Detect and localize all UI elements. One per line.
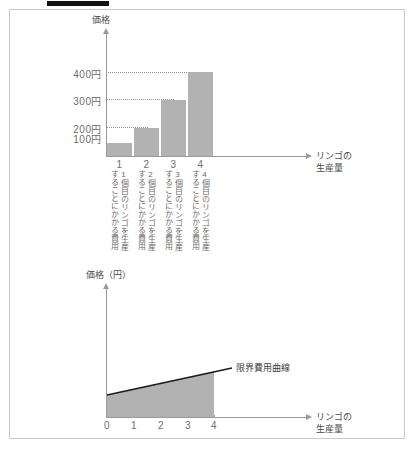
bar-caption-4-col2: することにかかる費用 (190, 170, 199, 256)
bar-number-3: 3 (161, 159, 186, 170)
figure-root: 価格 リンゴの 生産量 400円 300円 200円 100円 1 2 3 4 … (0, 0, 416, 451)
top-chart-ytick-400: 400円 (60, 66, 102, 81)
bottom-chart-xtick-mark-3 (188, 415, 189, 418)
bottom-chart-xtick-mark-0 (107, 415, 108, 418)
top-chart-x-axis-arrow (306, 153, 312, 159)
bar-caption-1-col1: 1個目のリンゴを生産 (119, 170, 128, 256)
top-chart-gridline-400 (106, 72, 199, 73)
marginal-cost-curve-label: 限界費用曲線 (236, 361, 290, 374)
bottom-chart-xtick-0: 0 (97, 420, 117, 431)
bar-caption-3-col1: 3個目のリンゴを生産 (173, 170, 182, 256)
bar-1 (107, 143, 132, 156)
bar-number-2: 2 (134, 159, 159, 170)
bar-2 (134, 128, 159, 156)
bar-4 (188, 72, 213, 156)
top-chart-x-axis-title-line1: リンゴの (316, 150, 352, 162)
bar-number-1: 1 (107, 159, 132, 170)
bar-caption-1-col2: することにかかる費用 (109, 170, 118, 256)
top-chart-x-axis-title-line2: 生産量 (316, 162, 343, 174)
bottom-chart-xtick-mark-1 (134, 415, 135, 418)
bar-caption-2-col1: 2個目のリンゴを生産 (146, 170, 155, 256)
top-chart-y-axis-line (106, 33, 107, 157)
bottom-chart-xtick-mark-2 (161, 415, 162, 418)
bottom-chart-xtick-3: 3 (178, 420, 198, 431)
bottom-chart-xtick-2: 2 (151, 420, 171, 431)
bar-caption-4-col1: 4個目のリンゴを生産 (200, 170, 209, 256)
bar-number-4: 4 (188, 159, 213, 170)
bottom-chart-xtick-4: 4 (204, 420, 224, 431)
shaded-area-under-curve (107, 372, 214, 417)
top-chart-ytick-100: 100円 (60, 131, 102, 146)
bar-caption-2-col2: することにかかる費用 (136, 170, 145, 256)
top-chart-ytick-300: 300円 (60, 93, 102, 108)
top-chart-y-axis-title: 価格 (92, 14, 110, 26)
bar-3 (161, 100, 186, 156)
bar-caption-3-col2: することにかかる費用 (163, 170, 172, 256)
bar-chart: 価格 リンゴの 生産量 400円 300円 200円 100円 1 2 3 4 … (0, 0, 416, 255)
bottom-chart-xtick-1: 1 (124, 420, 144, 431)
bottom-chart-xtick-mark-4 (214, 415, 215, 418)
marginal-cost-chart: 価格（円） リンゴの 生産量 限界費用曲線 0 1 2 3 4 (0, 255, 416, 451)
top-chart-x-axis-line (106, 156, 307, 157)
